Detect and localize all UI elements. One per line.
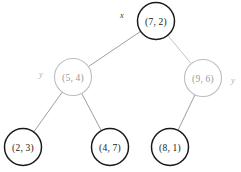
- tree-edge-left-to-ll: [34, 92, 63, 132]
- nodes-layer: (7, 2)(5, 4)(9, 6)(2, 3)(4, 7)(8, 1): [5, 3, 222, 166]
- tree-edge-root-to-left: [88, 31, 140, 66]
- tree-edge-right-to-rl: [178, 95, 195, 131]
- node-label-rl: (8, 1): [159, 143, 181, 154]
- node-label-ll: (2, 3): [12, 143, 34, 154]
- tree-node-right: (9, 6): [185, 60, 222, 97]
- tree-canvas: (7, 2)(5, 4)(9, 6)(2, 3)(4, 7)(8, 1) xyy: [0, 0, 241, 172]
- node-label-left: (5, 4): [62, 73, 84, 84]
- tree-edge-root-to-right: [168, 35, 191, 63]
- axis-label-right: y: [230, 75, 235, 85]
- tree-node-lr: (4, 7): [92, 129, 129, 166]
- tree-node-ll: (2, 3): [5, 129, 42, 166]
- node-label-right: (9, 6): [192, 74, 214, 85]
- axis-label-root: x: [119, 10, 124, 20]
- tree-node-left: (5, 4): [55, 59, 92, 96]
- kd-tree-diagram: (7, 2)(5, 4)(9, 6)(2, 3)(4, 7)(8, 1) xyy: [0, 0, 241, 172]
- node-label-root: (7, 2): [145, 17, 167, 28]
- axis-label-left: y: [38, 69, 43, 79]
- tree-edge-left-to-lr: [82, 93, 102, 130]
- tree-node-rl: (8, 1): [152, 129, 189, 166]
- tree-node-root: (7, 2): [138, 3, 175, 40]
- node-label-lr: (4, 7): [99, 143, 121, 154]
